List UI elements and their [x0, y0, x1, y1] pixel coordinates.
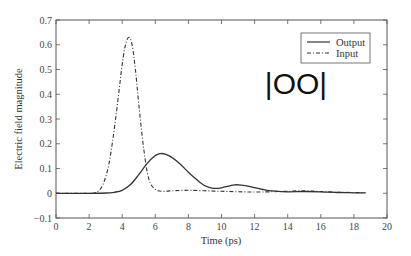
y-axis-title: Electric field magnitude — [13, 68, 24, 170]
x-tick-label: 12 — [250, 221, 260, 232]
x-tick-label: 8 — [186, 221, 191, 232]
x-tick-label: 18 — [349, 221, 359, 232]
annotation-label: |OO| — [265, 67, 327, 100]
x-tick-labels: 02468101214161820 — [54, 221, 393, 232]
x-tick-label: 10 — [217, 221, 227, 232]
x-tick-label: 14 — [283, 221, 293, 232]
y-tick-label: 0.5 — [40, 64, 53, 75]
y-tick-label: 0.2 — [40, 138, 53, 149]
x-tick-label: 2 — [87, 221, 92, 232]
y-tick-label: 0 — [47, 188, 52, 199]
x-tick-label: 0 — [54, 221, 59, 232]
y-tick-label: 0.1 — [40, 163, 53, 174]
legend: Output Input — [301, 33, 370, 63]
series-output — [56, 154, 366, 194]
y-tick-label: 0.3 — [40, 114, 53, 125]
x-axis-title: Time (ps) — [201, 235, 242, 247]
line-chart: 02468101214161820 −0.100.10.20.30.40.50.… — [0, 0, 411, 256]
x-tick-label: 16 — [316, 221, 326, 232]
y-tick-label: 0.6 — [40, 39, 53, 50]
y-tick-label: 0.4 — [40, 89, 53, 100]
x-tick-label: 6 — [153, 221, 158, 232]
legend-label-output: Output — [336, 37, 365, 48]
x-tick-label: 20 — [382, 221, 392, 232]
legend-label-input: Input — [336, 48, 358, 59]
y-tick-labels: −0.100.10.20.30.40.50.60.7 — [34, 15, 52, 224]
y-tick-label: 0.7 — [40, 15, 53, 26]
x-tick-label: 4 — [120, 221, 125, 232]
y-tick-label: −0.1 — [34, 213, 52, 224]
